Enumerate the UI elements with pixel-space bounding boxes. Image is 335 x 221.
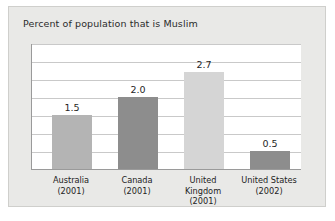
category-year: (2001) xyxy=(37,186,105,197)
category-name: Canada xyxy=(103,175,171,186)
category-year: (2001) xyxy=(169,196,237,207)
bar-australia[interactable] xyxy=(52,115,92,169)
category-name: Australia xyxy=(37,175,105,186)
bars-layer: 1.5 2.0 2.7 0.5 xyxy=(32,44,301,169)
category-year: (2002) xyxy=(235,186,303,197)
chart-card: Percent of population that is Muslim 1.5… xyxy=(8,6,326,207)
category-name: United States xyxy=(235,175,303,186)
plot-area: 1.5 2.0 2.7 0.5 xyxy=(31,44,301,170)
bar-group-united-states[interactable]: 0.5 xyxy=(250,44,290,169)
bar-value-australia: 1.5 xyxy=(38,102,106,113)
category-axis: Australia (2001) Canada (2001) United Ki… xyxy=(31,175,301,215)
bar-united-states[interactable] xyxy=(250,151,290,169)
bar-value-canada: 2.0 xyxy=(104,84,172,95)
category-label-united-states: United States (2002) xyxy=(235,175,303,196)
category-label-canada: Canada (2001) xyxy=(103,175,171,196)
bar-group-australia[interactable]: 1.5 xyxy=(52,44,92,169)
bar-group-united-kingdom[interactable]: 2.7 xyxy=(184,44,224,169)
category-name: United xyxy=(169,175,237,186)
category-label-united-kingdom: United Kingdom (2001) xyxy=(169,175,237,207)
bar-value-united-kingdom: 2.7 xyxy=(170,59,238,70)
chart-title: Percent of population that is Muslim xyxy=(23,18,198,29)
category-label-australia: Australia (2001) xyxy=(37,175,105,196)
bar-value-united-states: 0.5 xyxy=(236,138,304,149)
bar-canada[interactable] xyxy=(118,97,158,169)
bar-united-kingdom[interactable] xyxy=(184,72,224,169)
category-year: (2001) xyxy=(103,186,171,197)
category-name-2: Kingdom xyxy=(169,186,237,197)
bar-group-canada[interactable]: 2.0 xyxy=(118,44,158,169)
